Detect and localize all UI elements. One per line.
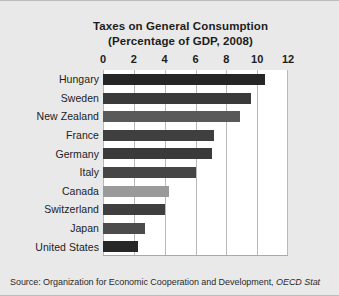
x-tick-label-0: 0 bbox=[100, 53, 106, 65]
bar-row bbox=[103, 182, 288, 201]
bar-row bbox=[103, 89, 288, 108]
x-tick-label-12: 12 bbox=[282, 53, 294, 65]
category-label-japan: Japan bbox=[70, 222, 99, 234]
x-tick-label-8: 8 bbox=[223, 53, 229, 65]
bar-japan bbox=[103, 223, 145, 234]
chart-title: Taxes on General Consumption (Percentage… bbox=[0, 19, 339, 49]
plot-wrapper: 024681012 HungarySwedenNew ZealandFrance… bbox=[0, 53, 339, 265]
source-note: Source: Organization for Economic Cooper… bbox=[10, 277, 335, 287]
x-tick-label-2: 2 bbox=[131, 53, 137, 65]
category-label-row: Switzerland bbox=[0, 200, 99, 219]
plot-area bbox=[103, 70, 288, 256]
bar-row bbox=[103, 200, 288, 219]
category-label-germany: Germany bbox=[55, 148, 99, 160]
bar-hungary bbox=[103, 74, 265, 85]
category-label-row: France bbox=[0, 126, 99, 145]
bar-new-zealand bbox=[103, 111, 240, 122]
bar-series bbox=[103, 70, 288, 255]
category-label-hungary: Hungary bbox=[59, 73, 99, 85]
category-label-row: Hungary bbox=[0, 70, 99, 89]
bar-italy bbox=[103, 167, 196, 178]
category-label-row: United States bbox=[0, 237, 99, 256]
source-note-prefix: Source: Organization for Economic Cooper… bbox=[10, 277, 276, 287]
category-label-row: Canada bbox=[0, 182, 99, 201]
x-tick-label-4: 4 bbox=[162, 53, 168, 65]
chart-figure: Taxes on General Consumption (Percentage… bbox=[0, 0, 339, 296]
category-label-france: France bbox=[66, 129, 99, 141]
bar-row bbox=[103, 237, 288, 256]
y-axis-category-labels: HungarySwedenNew ZealandFranceGermanyIta… bbox=[0, 70, 99, 256]
bar-france bbox=[103, 130, 214, 141]
category-label-new-zealand: New Zealand bbox=[37, 110, 99, 122]
x-axis-tick-labels: 024681012 bbox=[103, 53, 288, 69]
category-label-italy: Italy bbox=[79, 166, 99, 178]
category-label-row: Japan bbox=[0, 219, 99, 238]
bar-row bbox=[103, 219, 288, 238]
category-label-row: Sweden bbox=[0, 89, 99, 108]
bar-sweden bbox=[103, 93, 251, 104]
bar-united-states bbox=[103, 241, 138, 252]
category-label-switzerland: Switzerland bbox=[44, 203, 99, 215]
chart-title-line-1: Taxes on General Consumption bbox=[22, 19, 339, 34]
bar-switzerland bbox=[103, 204, 165, 215]
x-tick-label-10: 10 bbox=[251, 53, 263, 65]
source-note-publication: OECD Stat bbox=[276, 277, 320, 287]
category-label-row: Italy bbox=[0, 163, 99, 182]
category-label-sweden: Sweden bbox=[61, 92, 99, 104]
x-tick-label-6: 6 bbox=[192, 53, 198, 65]
chart-title-line-2: (Percentage of GDP, 2008) bbox=[22, 34, 339, 49]
bar-germany bbox=[103, 148, 212, 159]
category-label-row: New Zealand bbox=[0, 107, 99, 126]
bar-canada bbox=[103, 186, 169, 197]
bar-row bbox=[103, 144, 288, 163]
bar-row bbox=[103, 126, 288, 145]
bar-row bbox=[103, 70, 288, 89]
bar-row bbox=[103, 107, 288, 126]
category-label-row: Germany bbox=[0, 144, 99, 163]
bar-row bbox=[103, 163, 288, 182]
category-label-united-states: United States bbox=[35, 241, 99, 253]
category-label-canada: Canada bbox=[62, 185, 99, 197]
